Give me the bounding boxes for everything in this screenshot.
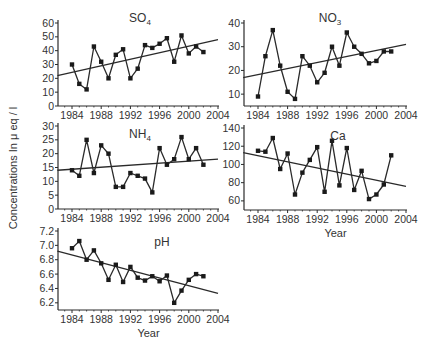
- data-point: [278, 167, 282, 171]
- y-tick-label: 30: [228, 40, 240, 52]
- data-point: [121, 280, 125, 284]
- x-tick-label: 2000: [365, 109, 389, 121]
- y-tick-label: 120: [222, 140, 240, 152]
- data-point: [337, 183, 341, 187]
- x-tick-label: 2000: [365, 213, 389, 225]
- x-tick-label: 1988: [90, 212, 114, 224]
- data-point: [150, 190, 154, 194]
- data-point: [315, 80, 319, 84]
- panel-title-so4: SO4: [129, 11, 151, 27]
- data-point: [143, 278, 147, 282]
- x-axis-label-ca: Year: [324, 227, 347, 239]
- x-tick-label: 2000: [177, 212, 201, 224]
- data-point: [187, 157, 191, 161]
- data-point: [367, 197, 371, 201]
- data-point: [150, 46, 154, 50]
- data-point: [179, 33, 183, 37]
- data-point: [194, 146, 198, 150]
- x-tick-label: 1992: [119, 109, 143, 121]
- data-point: [201, 163, 205, 167]
- x-tick-label: 1984: [246, 109, 270, 121]
- x-tick-label: 1988: [90, 109, 114, 121]
- panel-title-ca: Ca: [330, 129, 346, 143]
- data-point: [77, 239, 81, 243]
- y-tick-label: 100: [222, 158, 240, 170]
- data-point: [300, 170, 304, 174]
- x-tick-label: 2000: [177, 313, 201, 325]
- data-point: [84, 258, 88, 262]
- y-tick-label: 80: [228, 176, 240, 188]
- x-tick-label: 1992: [306, 109, 330, 121]
- chart-figure: Concentrations In μ eq / l 0102030405060…: [0, 0, 437, 352]
- y-tick-label: 6.2: [39, 296, 54, 308]
- data-point: [322, 190, 326, 194]
- y-tick-label: 15: [42, 161, 54, 173]
- x-tick-label: 2004: [206, 313, 230, 325]
- data-point: [293, 192, 297, 196]
- data-point: [374, 59, 378, 63]
- panel-no3: 10203040198419881992199620002004NO3: [228, 11, 418, 121]
- data-point: [70, 246, 74, 250]
- data-point: [70, 62, 74, 66]
- data-point: [77, 174, 81, 178]
- trend-line-ca: [243, 153, 406, 187]
- y-tick-label: 140: [222, 122, 240, 134]
- data-point: [315, 145, 319, 149]
- data-point: [165, 36, 169, 40]
- x-tick-label: 1984: [60, 313, 84, 325]
- data-point: [345, 146, 349, 150]
- data-point: [99, 143, 103, 147]
- x-tick-label: 1996: [335, 109, 359, 121]
- data-point: [367, 61, 371, 65]
- y-tick-label: 30: [42, 58, 54, 70]
- data-point: [165, 163, 169, 167]
- data-point: [77, 82, 81, 86]
- data-point: [308, 158, 312, 162]
- data-point: [70, 168, 74, 172]
- data-point: [92, 171, 96, 175]
- y-tick-label: 6.6: [39, 268, 54, 280]
- panel-nh4: 051015202530198419881992199620002004NH4: [42, 120, 230, 225]
- y-tick-label: 20: [228, 64, 240, 76]
- data-point: [293, 97, 297, 101]
- panel-title-no3: NO3: [319, 11, 342, 27]
- data-point: [99, 261, 103, 265]
- data-point: [179, 135, 183, 139]
- x-tick-label: 1988: [90, 313, 114, 325]
- data-point: [128, 171, 132, 175]
- data-point: [337, 63, 341, 67]
- y-tick-label: 7.2: [39, 225, 54, 237]
- data-point: [352, 188, 356, 192]
- data-point: [128, 76, 132, 80]
- data-point: [106, 76, 110, 80]
- y-tick-label: 60: [42, 17, 54, 29]
- data-point: [285, 151, 289, 155]
- panel-ca: 6080100120140198419881992199620002004CaY…: [222, 122, 417, 240]
- data-point: [92, 248, 96, 252]
- data-point: [263, 54, 267, 58]
- y-tick-label: 6.8: [39, 253, 54, 265]
- y-tick-label: 50: [42, 30, 54, 42]
- data-point: [187, 51, 191, 55]
- data-point: [84, 138, 88, 142]
- y-tick-label: 0: [48, 100, 54, 112]
- data-point: [136, 275, 140, 279]
- x-tick-label: 2000: [177, 109, 201, 121]
- x-tick-label: 2004: [394, 213, 418, 225]
- y-tick-label: 20: [42, 147, 54, 159]
- shared-y-axis-label: Concentrations In μ eq / l: [7, 107, 19, 230]
- x-tick-label: 1992: [306, 213, 330, 225]
- data-point: [201, 274, 205, 278]
- y-tick-label: 10: [42, 175, 54, 187]
- data-point: [99, 60, 103, 64]
- multi-panel-line-chart: Concentrations In μ eq / l 0102030405060…: [0, 0, 437, 352]
- x-tick-label: 1984: [60, 109, 84, 121]
- data-point: [389, 49, 393, 53]
- x-axis-label-ph: Year: [137, 327, 160, 339]
- data-point: [172, 157, 176, 161]
- data-point: [157, 279, 161, 283]
- data-point: [121, 185, 125, 189]
- y-tick-label: 10: [228, 88, 240, 100]
- data-point: [389, 153, 393, 157]
- data-point: [194, 272, 198, 276]
